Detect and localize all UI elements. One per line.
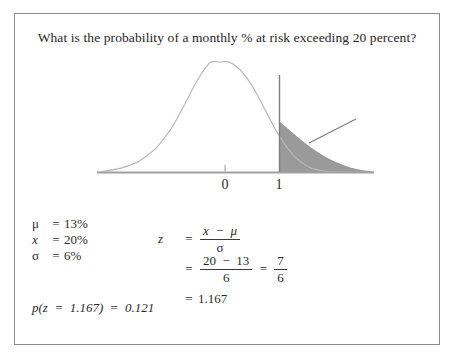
- formula-equals: =: [180, 231, 198, 247]
- axis-label-one: 1: [269, 177, 289, 193]
- parameter-symbol-sigma: σ: [32, 248, 48, 264]
- formula-variable-z: z: [158, 231, 180, 247]
- normal-curve: [101, 61, 373, 172]
- substitution-fraction: 20 − 13 6: [200, 254, 252, 285]
- shaded-tail-region: [279, 121, 373, 172]
- parameter-value-x: 20%: [64, 232, 88, 248]
- evaluation-value: 1.167: [198, 291, 227, 307]
- parameter-symbol-x: x: [32, 232, 48, 248]
- parameter-row-x: x = 20%: [32, 232, 88, 248]
- probability-statement: p(z = 1.167) = 0.121: [32, 300, 154, 316]
- substitution-line: = 20 − 13 6 = 7 6: [158, 254, 289, 284]
- evaluation-equals: =: [180, 291, 198, 307]
- figure-page: What is the probability of a monthly % a…: [0, 0, 454, 359]
- parameter-row-mu: μ = 13%: [32, 216, 88, 232]
- parameter-value-sigma: 6%: [64, 248, 81, 264]
- parameter-equals-mu: =: [48, 216, 64, 232]
- parameter-symbol-mu: μ: [32, 216, 48, 232]
- parameter-list: μ = 13% x = 20% σ = 6%: [32, 216, 88, 264]
- parameter-value-mu: 13%: [64, 216, 88, 232]
- result-denominator: 6: [274, 269, 287, 285]
- parameter-row-sigma: σ = 6%: [32, 248, 88, 264]
- result-numerator: 7: [274, 254, 287, 269]
- result-fraction: 7 6: [274, 254, 287, 285]
- formula-numerator: x − μ: [200, 224, 240, 239]
- formula-fraction: x − μ σ: [200, 224, 240, 255]
- evaluation-line: = 1.167: [158, 284, 289, 314]
- axis-label-zero: 0: [215, 177, 235, 193]
- substitution-numerator: 20 − 13: [200, 254, 252, 269]
- z-score-derivation: z = x − μ σ = 20 − 13 6 = 7 6 = 1.167: [158, 224, 289, 314]
- tail-leader-line: [309, 119, 356, 143]
- substitution-equals: =: [180, 261, 198, 277]
- substitution-denominator: 6: [200, 269, 252, 285]
- parameter-equals-sigma: =: [48, 248, 64, 264]
- substitution-equals-two: =: [254, 261, 272, 277]
- formula-line: z = x − μ σ: [158, 224, 289, 254]
- parameter-equals-x: =: [48, 232, 64, 248]
